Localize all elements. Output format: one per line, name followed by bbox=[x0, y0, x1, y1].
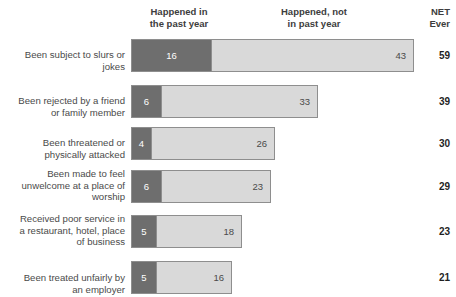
bar-segment-happened-not-past-year[interactable]: 18 bbox=[156, 215, 242, 248]
bar-value-happened-past-year: 4 bbox=[139, 139, 144, 149]
column-header-happened-past-year: Happened in the past year bbox=[133, 6, 225, 29]
stacked-bar-chart: Happened in the past year Happened, not … bbox=[0, 0, 456, 297]
bar-segment-happened-not-past-year[interactable]: 26 bbox=[151, 127, 275, 160]
stacked-bar[interactable]: 426 bbox=[131, 127, 275, 160]
chart-row: Been made to feel unwelcome at a place o… bbox=[0, 166, 456, 211]
bar-value-happened-past-year: 5 bbox=[141, 273, 146, 283]
net-ever-value: 59 bbox=[410, 39, 450, 72]
net-ever-value: 23 bbox=[410, 215, 450, 248]
net-ever-value: 21 bbox=[410, 261, 450, 294]
bar-value-happened-not-past-year: 26 bbox=[256, 139, 274, 149]
net-ever-value: 29 bbox=[410, 170, 450, 203]
chart-row-inner: Been subject to slurs or jokes164359 bbox=[0, 39, 456, 72]
chart-row-inner: Been rejected by a friend or family memb… bbox=[0, 85, 456, 118]
column-header-happened-not-past-year: Happened, not in past year bbox=[262, 6, 366, 29]
bar-segment-happened-not-past-year[interactable]: 33 bbox=[161, 85, 318, 118]
column-header-net-ever: NET Ever bbox=[410, 6, 450, 29]
category-label: Been subject to slurs or jokes bbox=[0, 49, 125, 72]
net-ever-value: 30 bbox=[410, 127, 450, 160]
chart-row: Been rejected by a friend or family memb… bbox=[0, 82, 456, 124]
category-label: Received poor service in a restaurant, h… bbox=[0, 213, 125, 248]
bar-segment-happened-past-year[interactable]: 16 bbox=[131, 39, 211, 72]
bar-segment-happened-not-past-year[interactable]: 23 bbox=[161, 170, 271, 203]
chart-row-inner: Received poor service in a restaurant, h… bbox=[0, 215, 456, 248]
category-label: Been made to feel unwelcome at a place o… bbox=[0, 168, 125, 203]
net-ever-value: 39 bbox=[410, 85, 450, 118]
stacked-bar[interactable]: 623 bbox=[131, 170, 271, 203]
category-label: Been treated unfairly by an employer bbox=[0, 272, 125, 295]
bar-segment-happened-past-year[interactable]: 6 bbox=[131, 85, 161, 118]
stacked-bar[interactable]: 516 bbox=[131, 261, 232, 294]
bar-value-happened-past-year: 16 bbox=[166, 51, 177, 61]
chart-row: Been treated unfairly by an employer5162… bbox=[0, 257, 456, 297]
chart-row: Been threatened or physically attacked42… bbox=[0, 124, 456, 166]
bar-value-happened-past-year: 6 bbox=[144, 182, 149, 192]
bar-segment-happened-not-past-year[interactable]: 16 bbox=[156, 261, 232, 294]
bar-value-happened-not-past-year: 18 bbox=[223, 227, 241, 237]
chart-column-headers: Happened in the past year Happened, not … bbox=[0, 0, 456, 36]
chart-row: Received poor service in a restaurant, h… bbox=[0, 211, 456, 257]
chart-row-inner: Been treated unfairly by an employer5162… bbox=[0, 261, 456, 294]
stacked-bar[interactable]: 518 bbox=[131, 215, 242, 248]
stacked-bar[interactable]: 1643 bbox=[131, 39, 414, 72]
bar-segment-happened-past-year[interactable]: 6 bbox=[131, 170, 161, 203]
chart-row-inner: Been made to feel unwelcome at a place o… bbox=[0, 170, 456, 203]
category-label: Been threatened or physically attacked bbox=[0, 137, 125, 160]
bar-segment-happened-not-past-year[interactable]: 43 bbox=[211, 39, 414, 72]
chart-row-inner: Been threatened or physically attacked42… bbox=[0, 127, 456, 160]
chart-row: Been subject to slurs or jokes164359 bbox=[0, 36, 456, 82]
stacked-bar[interactable]: 633 bbox=[131, 85, 318, 118]
bar-value-happened-not-past-year: 33 bbox=[299, 97, 317, 107]
bar-segment-happened-past-year[interactable]: 5 bbox=[131, 261, 156, 294]
chart-rows: Been subject to slurs or jokes164359Been… bbox=[0, 36, 456, 297]
bar-value-happened-not-past-year: 16 bbox=[213, 273, 231, 283]
bar-segment-happened-past-year[interactable]: 5 bbox=[131, 215, 156, 248]
category-label: Been rejected by a friend or family memb… bbox=[0, 95, 125, 118]
bar-segment-happened-past-year[interactable]: 4 bbox=[131, 127, 151, 160]
bar-value-happened-past-year: 5 bbox=[141, 227, 146, 237]
bar-value-happened-not-past-year: 23 bbox=[252, 182, 270, 192]
bar-value-happened-past-year: 6 bbox=[144, 97, 149, 107]
